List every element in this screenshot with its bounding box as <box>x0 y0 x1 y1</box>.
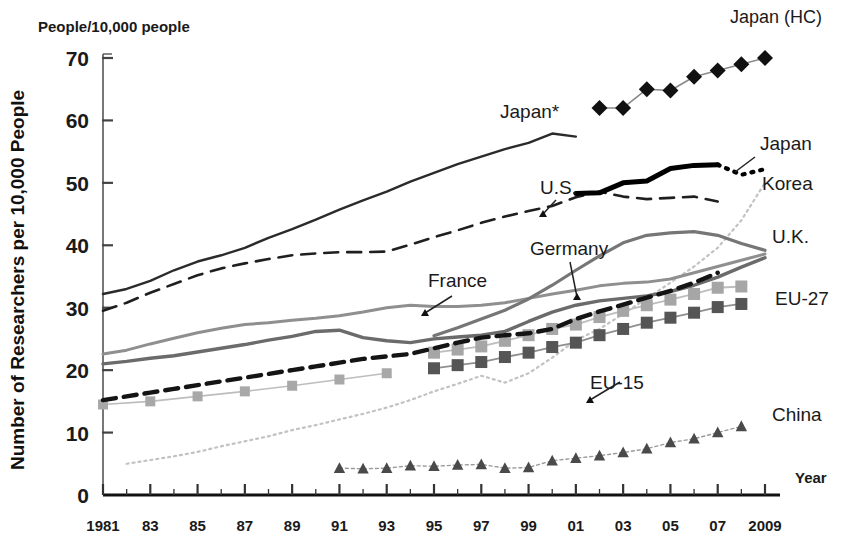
x-tick-label: 97 <box>473 517 490 534</box>
annotation-germany: Germany <box>530 238 609 259</box>
data-point <box>193 391 203 401</box>
data-point <box>523 347 535 359</box>
y-tick-label: 10 <box>66 422 89 445</box>
annotation-korea: Korea <box>762 173 813 194</box>
data-point <box>334 375 344 385</box>
x-tick-label: 89 <box>284 517 301 534</box>
data-point <box>475 356 487 368</box>
data-point <box>145 396 155 406</box>
y-tick-label: 0 <box>77 484 89 507</box>
unit-note-label: People/10,000 people <box>38 18 190 35</box>
annotation-china: China <box>772 404 822 425</box>
annotation-japan-star: Japan* <box>500 101 560 122</box>
data-point <box>594 329 606 341</box>
data-point <box>452 359 464 371</box>
x-tick-label: 01 <box>568 517 585 534</box>
annotation-france: France <box>428 270 487 291</box>
researchers-per-10000-line-chart: People/10,000 people Number of Researche… <box>0 0 853 557</box>
annotation-eu15: EU-15 <box>590 372 644 393</box>
data-point <box>712 282 724 294</box>
annotation-japan: Japan <box>760 133 812 154</box>
x-tick-label: 85 <box>189 517 206 534</box>
x-tick-label: 07 <box>709 517 726 534</box>
data-point <box>735 298 747 310</box>
chart-figure: People/10,000 people Number of Researche… <box>0 0 853 557</box>
x-tick-label: 87 <box>237 517 254 534</box>
data-point <box>499 351 511 363</box>
y-tick-label: 70 <box>66 47 89 70</box>
data-point <box>617 323 629 335</box>
data-point <box>664 312 676 324</box>
x-tick-label: 2009 <box>748 517 781 534</box>
data-point <box>688 288 700 300</box>
annotation-uk: U.K. <box>772 226 809 247</box>
annotation-japan-hc: Japan (HC) <box>730 7 822 27</box>
annotation-eu27: EU-27 <box>775 288 829 309</box>
x-tick-label: 99 <box>520 517 537 534</box>
x-tick-label: 83 <box>142 517 159 534</box>
y-axis-title: Number of Researchers per 10,000 People <box>7 90 28 470</box>
data-point <box>287 381 297 391</box>
data-point <box>240 386 250 396</box>
x-tick-label: 91 <box>331 517 348 534</box>
y-tick-label: 40 <box>66 234 89 257</box>
x-tick-labels: 1981838587899193959799010305072009 <box>86 517 781 534</box>
x-tick-label: 03 <box>615 517 632 534</box>
y-tick-label: 50 <box>66 172 89 195</box>
annotation-us: U.S. <box>540 177 577 198</box>
data-point <box>428 362 440 374</box>
data-point <box>452 344 464 356</box>
x-tick-label: 95 <box>426 517 443 534</box>
data-point <box>735 280 747 292</box>
y-tick-label: 60 <box>66 109 89 132</box>
data-point <box>664 294 676 306</box>
x-tick-label: 93 <box>378 517 395 534</box>
data-point <box>475 340 487 352</box>
x-tick-label: 1981 <box>86 517 119 534</box>
data-point <box>688 307 700 319</box>
chart-background <box>0 0 853 557</box>
y-tick-label: 30 <box>66 297 89 320</box>
x-axis-title: Year <box>795 469 827 486</box>
x-tick-label: 05 <box>662 517 679 534</box>
y-tick-label: 20 <box>66 359 89 382</box>
data-point <box>712 301 724 313</box>
data-point <box>546 341 558 353</box>
data-point <box>641 317 653 329</box>
data-point <box>382 368 392 378</box>
data-point <box>570 337 582 349</box>
